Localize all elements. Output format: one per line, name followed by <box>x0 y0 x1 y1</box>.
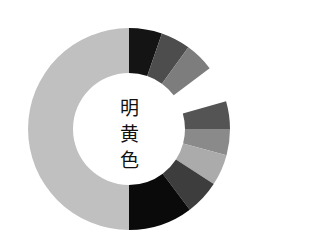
donut-segment-4 <box>183 101 230 129</box>
center-label: 明 黄 色 <box>104 95 154 173</box>
center-char-2: 黄 <box>120 121 139 147</box>
center-char-3: 色 <box>120 147 139 173</box>
center-char-1: 明 <box>120 95 139 121</box>
